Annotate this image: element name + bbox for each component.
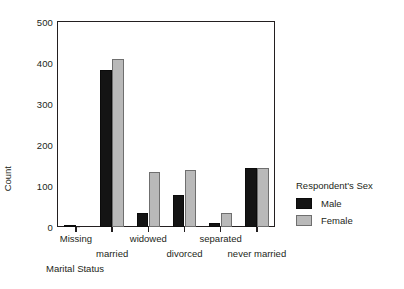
x-tick-mark [184, 227, 186, 232]
x-tick-label: widowed [130, 233, 167, 244]
y-axis-ticks: 0100200300400500 [24, 0, 53, 289]
legend-swatch-female [296, 215, 312, 226]
legend: Respondent's Sex MaleFemale [296, 180, 402, 230]
x-tick-mark [220, 227, 222, 232]
legend-title: Respondent's Sex [296, 180, 402, 191]
y-tick-label: 500 [37, 16, 53, 27]
x-tick-label: divorced [167, 248, 203, 259]
x-axis-title: Marital Status [46, 263, 104, 274]
y-tick-label: 100 [37, 180, 53, 191]
legend-item-male: Male [296, 196, 402, 210]
y-tick-label: 300 [37, 98, 53, 109]
x-tick-label: never married [228, 248, 287, 259]
legend-label: Female [321, 215, 353, 226]
y-tick-label: 400 [37, 57, 53, 68]
bar-chart: Count 0100200300400500 Missingmarriedwid… [0, 0, 404, 289]
x-tick-label: married [96, 248, 128, 259]
y-axis-title: Count [2, 166, 18, 191]
legend-swatch-male [296, 198, 312, 209]
y-tick-label: 200 [37, 139, 53, 150]
x-tick-label: separated [200, 233, 242, 244]
legend-item-female: Female [296, 213, 402, 227]
y-tick-label: 0 [48, 221, 53, 232]
x-tick-label: Missing [60, 233, 92, 244]
legend-label: Male [321, 198, 342, 209]
x-tick-mark [148, 227, 150, 232]
plot-area [57, 21, 275, 227]
x-tick-mark [256, 227, 258, 232]
x-tick-mark [75, 227, 77, 232]
x-tick-mark [111, 227, 113, 232]
